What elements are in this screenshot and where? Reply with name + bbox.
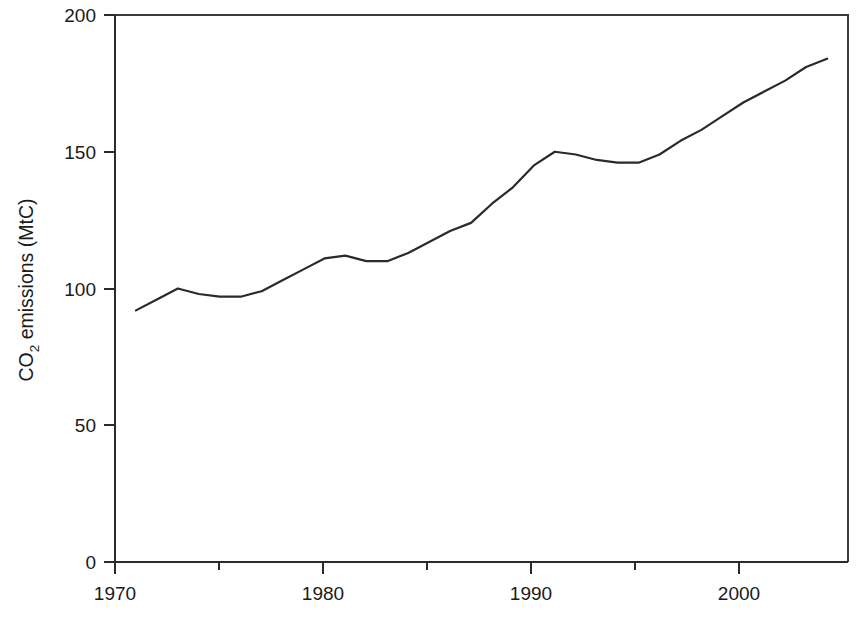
y-axis-ticks [104, 15, 115, 562]
y-axis-title-prefix: CO [15, 352, 37, 381]
y-axis-title-text: CO2 emissions (MtC) [15, 198, 42, 381]
x-axis-ticks [115, 562, 739, 574]
x-tick-label-2000: 2000 [718, 583, 760, 604]
y-tick-label-100: 100 [64, 279, 96, 300]
y-axis-title-subscript: 2 [27, 345, 42, 353]
x-tick-label-1980: 1980 [302, 583, 344, 604]
x-axis-tick-labels: 1970 1980 1990 2000 [94, 583, 760, 604]
data-series-line [136, 59, 827, 311]
y-tick-label-200: 200 [64, 5, 96, 26]
chart-figure: 0 50 100 150 200 1970 1980 1990 2000 CO2 [0, 0, 859, 619]
plot-frame-top-right [115, 15, 848, 562]
chart-canvas: 0 50 100 150 200 1970 1980 1990 2000 CO2 [0, 0, 859, 619]
x-tick-label-1970: 1970 [94, 583, 136, 604]
x-tick-label-1990: 1990 [510, 583, 552, 604]
y-axis-title: CO2 emissions (MtC) [15, 198, 42, 381]
y-tick-label-0: 0 [85, 552, 96, 573]
y-tick-label-50: 50 [75, 415, 96, 436]
y-tick-label-150: 150 [64, 142, 96, 163]
y-axis-title-main-text: emissions (MtC) [15, 198, 37, 339]
y-axis-tick-labels: 0 50 100 150 200 [64, 5, 96, 573]
